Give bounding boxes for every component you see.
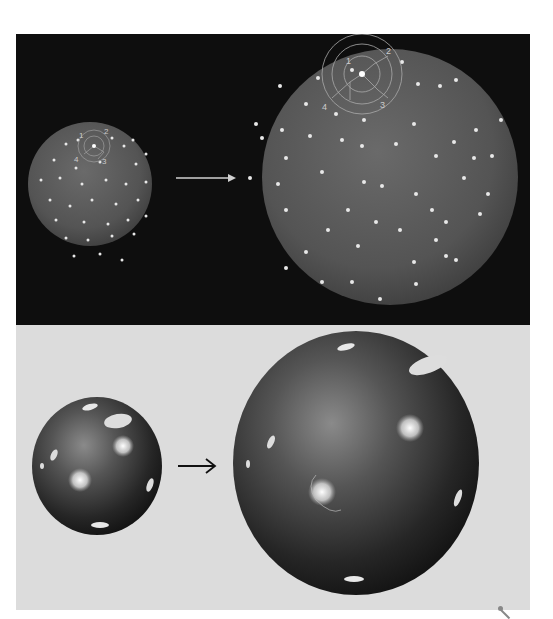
small-galaxy-sphere [32,397,162,535]
label-1-large: 1 [346,56,351,66]
large-galaxy-sphere [233,331,479,595]
galaxy-sphere-panel [16,325,530,610]
label-3-large: 3 [380,100,385,110]
pin-line [500,609,510,619]
large-balloon: 1 2 3 4 [248,34,518,305]
galaxy-sphere-illustration [16,325,530,610]
small-balloon: 1 2 3 4 [28,122,152,262]
right-arrow-icon [178,459,215,473]
balloon-dots-illustration: 1 2 3 4 [16,34,530,325]
label-1: 1 [79,131,84,140]
label-2: 2 [104,127,109,136]
right-arrow-icon [176,174,236,182]
label-4: 4 [74,155,79,164]
label-4-large: 4 [322,102,327,112]
balloon-dots-panel: 1 2 3 4 [16,34,530,325]
label-3: 3 [102,157,107,166]
label-2-large: 2 [386,46,391,56]
